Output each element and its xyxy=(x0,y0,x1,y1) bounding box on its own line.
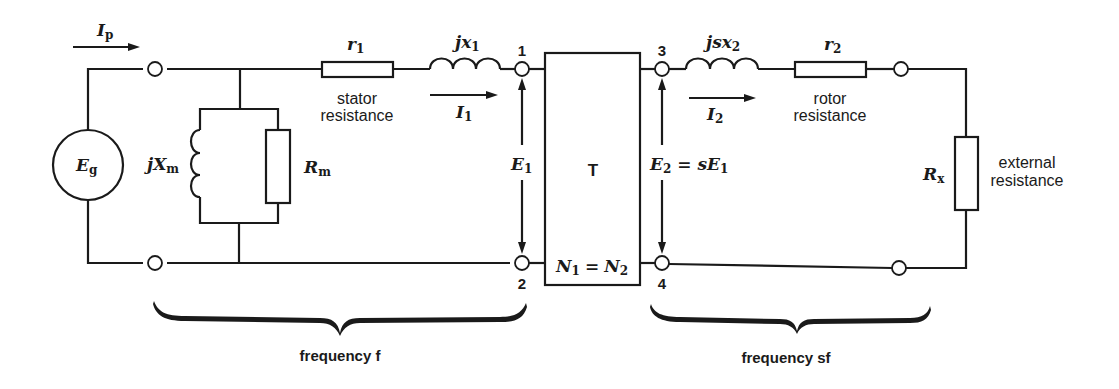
label-frequency-f: frequency f xyxy=(300,347,382,364)
terminal-node-4 xyxy=(655,256,669,270)
terminal-node-2 xyxy=(515,256,529,270)
magnetizing-branch xyxy=(191,69,290,263)
inductor-jsx2 xyxy=(686,59,758,70)
circuit-diagram: Ip Eg jXm Rm r1 jx1 stator xyxy=(0,0,1119,389)
resistor-rx xyxy=(955,137,978,210)
label-rotor: rotor xyxy=(814,90,848,107)
label-jx1: jx1 xyxy=(452,32,480,54)
label-external: external xyxy=(999,154,1056,171)
inductor-jx1 xyxy=(430,59,500,70)
terminal-right-top xyxy=(894,62,908,76)
node-label-1: 1 xyxy=(518,42,526,59)
inductor-jxm xyxy=(191,130,200,197)
label-frequency-sf: frequency sf xyxy=(741,349,831,366)
label-jxm: jXm xyxy=(144,154,179,176)
current-i2-arrow xyxy=(689,94,756,102)
current-i1-arrow xyxy=(430,91,498,99)
terminal-node-1 xyxy=(515,62,529,76)
resistor-rm xyxy=(266,130,290,203)
label-rm: Rm xyxy=(303,157,331,179)
node-label-4: 4 xyxy=(658,275,667,292)
terminal-left-top xyxy=(148,62,162,76)
label-i2: I2 xyxy=(706,104,723,126)
label-stator: stator xyxy=(337,90,378,107)
terminal-node-3 xyxy=(655,62,669,76)
node-label-2: 2 xyxy=(518,275,526,292)
brace-frequency-sf xyxy=(650,304,931,334)
resistor-r2 xyxy=(795,62,866,77)
label-external-resistance: resistance xyxy=(991,172,1064,189)
label-jsx2: jsx2 xyxy=(703,32,740,54)
terminal-left-bottom xyxy=(148,256,162,270)
label-ip: Ip xyxy=(96,20,113,42)
resistor-r1 xyxy=(322,62,393,77)
label-r1: r1 xyxy=(347,34,364,56)
turns-ratio: N1=N2 xyxy=(555,256,628,278)
terminal-right-bottom xyxy=(892,261,906,275)
label-rotor-resistance: resistance xyxy=(794,107,867,124)
node-label-3: 3 xyxy=(658,42,666,59)
label-stator-resistance: resistance xyxy=(321,107,394,124)
brace-frequency-f xyxy=(153,301,527,336)
label-e1: E1 xyxy=(510,154,532,176)
transformer-label: T xyxy=(588,161,599,180)
label-r2: r2 xyxy=(824,34,841,56)
label-rx: Rx xyxy=(922,164,945,186)
current-ip-arrow xyxy=(73,43,140,51)
label-i1: I1 xyxy=(455,102,472,124)
label-e2: E2= sE1 xyxy=(649,154,728,176)
